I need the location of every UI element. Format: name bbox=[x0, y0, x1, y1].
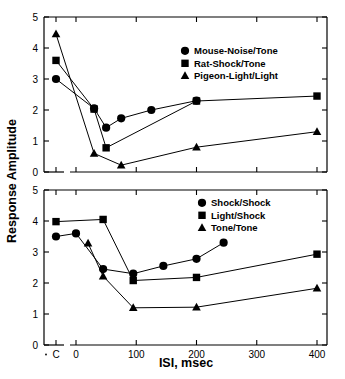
data-point bbox=[193, 274, 200, 281]
data-point bbox=[117, 114, 125, 122]
series-bottom-1 bbox=[52, 216, 320, 284]
axis-frame-bottom bbox=[44, 190, 327, 345]
data-point bbox=[130, 277, 137, 284]
data-point bbox=[99, 216, 106, 223]
series-line bbox=[56, 79, 197, 128]
data-point bbox=[159, 262, 167, 270]
x-axis-title: ISI, msec bbox=[159, 356, 213, 370]
data-point bbox=[84, 239, 93, 247]
legend-item: Mouse-Noise/Tone bbox=[181, 45, 278, 56]
legend-label: Mouse-Noise/Tone bbox=[194, 45, 278, 56]
legend-label: Tone/Tone bbox=[211, 222, 258, 233]
legend-marker-circle-icon bbox=[198, 199, 206, 207]
data-point bbox=[90, 105, 97, 112]
series-bottom-2 bbox=[84, 239, 322, 311]
data-point bbox=[72, 229, 80, 237]
data-point bbox=[102, 124, 110, 132]
legend-item: Pigeon-Light/Light bbox=[181, 70, 279, 81]
data-point bbox=[313, 250, 320, 257]
data-point bbox=[313, 127, 322, 135]
y-ticks-top bbox=[44, 17, 327, 172]
x-ticks-bottom bbox=[56, 190, 317, 345]
data-point bbox=[52, 75, 60, 83]
data-point bbox=[99, 272, 108, 280]
y-tick-label: 4 bbox=[32, 43, 38, 54]
data-point bbox=[52, 57, 59, 64]
series-top-1 bbox=[52, 57, 320, 152]
legend-item: Shock/Shock bbox=[198, 197, 271, 208]
x-tick-label: 400 bbox=[309, 349, 326, 360]
y-tick-label: 3 bbox=[32, 74, 38, 85]
legend-marker-square-icon bbox=[181, 60, 188, 67]
x-tick-label: 100 bbox=[128, 349, 145, 360]
data-point bbox=[313, 284, 322, 292]
legend-label: Pigeon-Light/Light bbox=[194, 70, 279, 81]
y-tick-label: 5 bbox=[32, 12, 38, 23]
y-tick-label: 2 bbox=[32, 105, 38, 116]
data-point bbox=[313, 92, 320, 99]
series-line bbox=[56, 233, 224, 273]
x-tick-label: 0 bbox=[73, 349, 79, 360]
data-point bbox=[193, 97, 200, 104]
panel-top: 012345 bbox=[32, 12, 327, 178]
data-point bbox=[102, 144, 109, 151]
series-line bbox=[56, 219, 317, 280]
legend-marker-triangle-icon bbox=[198, 223, 207, 231]
legend-marker-triangle-icon bbox=[181, 71, 190, 79]
y-tick-label: 0 bbox=[32, 340, 38, 351]
y-ticks-bottom bbox=[44, 190, 327, 345]
y-tick-label: 3 bbox=[32, 247, 38, 258]
x-ticks-top bbox=[56, 17, 317, 172]
y-tick-label: 1 bbox=[32, 309, 38, 320]
legend-item: Rat-Shock/Tone bbox=[181, 58, 265, 69]
data-point bbox=[192, 255, 200, 263]
data-point bbox=[52, 232, 60, 240]
legend-marker-circle-icon bbox=[181, 47, 189, 55]
y-tick-label: 2 bbox=[32, 278, 38, 289]
legend-item: Light/Shock bbox=[198, 210, 266, 221]
legend-marker-square-icon bbox=[198, 212, 205, 219]
x-tick-label: 300 bbox=[248, 349, 265, 360]
data-point bbox=[220, 239, 228, 247]
data-point bbox=[52, 218, 59, 225]
y-axis-title: Response Amplitude bbox=[5, 119, 19, 243]
legend-label: Light/Shock bbox=[211, 210, 266, 221]
y-tick-label: 0 bbox=[32, 167, 38, 178]
figure-container: 012345012345C0100200300400Mouse-Noise/To… bbox=[0, 0, 345, 379]
y-tick-label: 4 bbox=[32, 216, 38, 227]
panel-bottom: 012345C0100200300400 bbox=[32, 185, 327, 360]
legend-bottom: Shock/ShockLight/ShockTone/Tone bbox=[198, 197, 272, 233]
data-point bbox=[52, 30, 61, 38]
data-point bbox=[147, 106, 155, 114]
y-tick-label: 5 bbox=[32, 185, 38, 196]
axis-break-dot bbox=[45, 354, 47, 356]
legend-top: Mouse-Noise/ToneRat-Shock/TonePigeon-Lig… bbox=[181, 45, 279, 81]
chart-canvas: 012345012345C0100200300400Mouse-Noise/To… bbox=[0, 0, 345, 379]
data-point bbox=[90, 149, 99, 157]
y-tick-label: 1 bbox=[32, 136, 38, 147]
series-line bbox=[88, 243, 317, 307]
legend-label: Rat-Shock/Tone bbox=[194, 58, 266, 69]
legend-item: Tone/Tone bbox=[198, 222, 258, 233]
axis-frame-top bbox=[44, 17, 327, 172]
legend-label: Shock/Shock bbox=[211, 197, 271, 208]
series-bottom-0 bbox=[52, 229, 228, 278]
x-tick-label: C bbox=[52, 349, 59, 360]
